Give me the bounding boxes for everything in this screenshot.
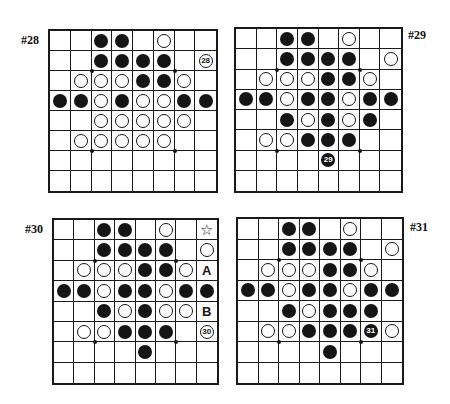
board-cell[interactable] — [197, 281, 217, 301]
board-cell[interactable] — [112, 51, 133, 71]
board-cell[interactable] — [154, 71, 175, 91]
board-cell[interactable] — [74, 240, 94, 260]
board-cell[interactable] — [71, 171, 92, 191]
board-cell[interactable] — [339, 151, 360, 171]
board-cell[interactable] — [259, 342, 280, 363]
board-cell[interactable] — [339, 90, 360, 110]
board-cell[interactable] — [156, 363, 176, 383]
board-cell[interactable] — [259, 322, 280, 343]
board-cell[interactable]: 30 — [197, 322, 217, 342]
board-cell[interactable] — [133, 151, 154, 171]
board-cell[interactable] — [50, 71, 71, 91]
board-cell[interactable] — [92, 51, 113, 71]
board-cell[interactable] — [197, 363, 217, 383]
board-cell[interactable] — [74, 261, 94, 281]
board-cell[interactable] — [339, 70, 360, 90]
board-cell[interactable] — [238, 301, 259, 322]
board-cell[interactable] — [277, 130, 298, 150]
board-cell[interactable] — [257, 130, 278, 150]
board-cell[interactable] — [175, 71, 196, 91]
board-cell[interactable] — [176, 261, 196, 281]
board-cell[interactable]: B — [197, 302, 217, 322]
board-cell[interactable] — [298, 130, 319, 150]
board-cell[interactable] — [156, 261, 176, 281]
board-cell[interactable] — [176, 240, 196, 260]
board-cell[interactable] — [95, 302, 115, 322]
board-cell[interactable] — [339, 110, 360, 130]
board-cell[interactable] — [175, 131, 196, 151]
board-cell[interactable] — [195, 71, 216, 91]
board-cell[interactable] — [298, 171, 319, 191]
board-cell[interactable] — [236, 130, 257, 150]
board-cell[interactable] — [382, 301, 403, 322]
board-cell[interactable] — [380, 49, 401, 69]
board-cell[interactable] — [300, 322, 321, 343]
board-cell[interactable] — [238, 322, 259, 343]
board-cell[interactable] — [71, 91, 92, 111]
board-cell[interactable] — [279, 301, 300, 322]
board-cell[interactable] — [92, 151, 113, 171]
board-cell[interactable] — [112, 31, 133, 51]
board-cell[interactable] — [115, 322, 135, 342]
board-cell[interactable] — [360, 70, 381, 90]
board-cell[interactable] — [133, 91, 154, 111]
board-cell[interactable] — [319, 171, 340, 191]
board-cell[interactable]: 31 — [361, 322, 382, 343]
board-cell[interactable] — [115, 342, 135, 362]
board-cell[interactable] — [112, 91, 133, 111]
board-cell[interactable] — [112, 131, 133, 151]
board-cell[interactable] — [279, 240, 300, 261]
board-cell[interactable] — [195, 31, 216, 51]
board-cell[interactable] — [195, 171, 216, 191]
board-cell[interactable] — [74, 342, 94, 362]
board-cell[interactable] — [71, 31, 92, 51]
board-cell[interactable] — [95, 220, 115, 240]
board-cell[interactable] — [175, 171, 196, 191]
board-cell[interactable] — [279, 260, 300, 281]
board-cell[interactable] — [236, 171, 257, 191]
board-cell[interactable] — [382, 342, 403, 363]
board-cell[interactable] — [277, 49, 298, 69]
board-cell[interactable] — [320, 363, 341, 384]
board-cell[interactable] — [136, 342, 156, 362]
board-cell[interactable] — [136, 220, 156, 240]
board-cell[interactable] — [112, 71, 133, 91]
board-cell[interactable] — [300, 219, 321, 240]
board-cell[interactable] — [298, 110, 319, 130]
board-cell[interactable] — [361, 240, 382, 261]
board-cell[interactable] — [92, 71, 113, 91]
board-cell[interactable] — [238, 240, 259, 261]
board-cell[interactable] — [156, 220, 176, 240]
board-cell[interactable] — [259, 281, 280, 302]
board-cell[interactable] — [277, 90, 298, 110]
board-cell[interactable] — [154, 131, 175, 151]
board-cell[interactable] — [320, 322, 341, 343]
board-cell[interactable] — [115, 240, 135, 260]
board-cell[interactable] — [257, 151, 278, 171]
board-cell[interactable] — [341, 342, 362, 363]
board-cell[interactable] — [95, 322, 115, 342]
board-cell[interactable] — [154, 171, 175, 191]
board-cell[interactable] — [95, 261, 115, 281]
board-cell[interactable] — [298, 29, 319, 49]
board-cell[interactable] — [71, 51, 92, 71]
board-cell[interactable] — [279, 281, 300, 302]
board-cell[interactable] — [175, 151, 196, 171]
board-cell[interactable] — [339, 29, 360, 49]
board-cell[interactable] — [236, 70, 257, 90]
board-cell[interactable] — [95, 281, 115, 301]
board-cell[interactable] — [50, 131, 71, 151]
board-cell[interactable] — [341, 281, 362, 302]
board-cell[interactable] — [320, 281, 341, 302]
board-cell[interactable] — [277, 29, 298, 49]
board-cell[interactable] — [238, 260, 259, 281]
board-cell[interactable] — [341, 219, 362, 240]
board-cell[interactable] — [320, 342, 341, 363]
board-cell[interactable] — [95, 240, 115, 260]
board-cell[interactable] — [300, 301, 321, 322]
board-cell[interactable] — [156, 322, 176, 342]
board-cell[interactable] — [360, 90, 381, 110]
board-cell[interactable] — [74, 322, 94, 342]
board-cell[interactable] — [319, 90, 340, 110]
board-cell[interactable] — [361, 363, 382, 384]
